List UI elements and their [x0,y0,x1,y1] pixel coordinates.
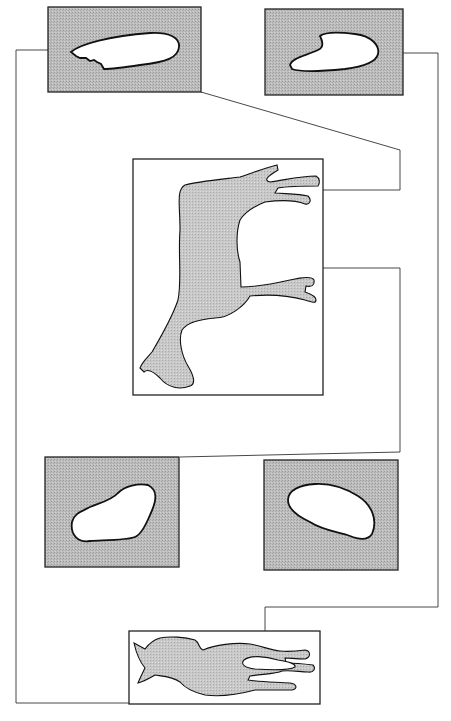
section-panel-middle-left [45,457,179,567]
cross-section-diagram [0,0,451,721]
section-panel-middle-right [264,460,398,570]
lateral-view-frame [133,159,323,395]
section-panel-top-right [265,9,403,95]
dorsal-view-frame [129,631,320,704]
section-panel-top-left [48,7,201,92]
